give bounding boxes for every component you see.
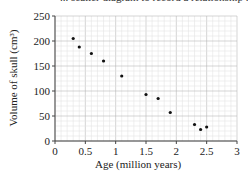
y-tick-label: 150 [34, 60, 51, 72]
y-tick-label: 50 [39, 110, 51, 122]
data-point [205, 125, 208, 128]
x-tick-label: 1 [113, 145, 119, 157]
data-point [78, 45, 81, 48]
x-tick-label: 0.5 [78, 145, 92, 157]
data-point [120, 74, 123, 77]
y-tick-label: 200 [34, 35, 51, 47]
x-tick-label: 0 [52, 145, 58, 157]
data-point [169, 111, 172, 114]
y-tick-label: 0 [45, 135, 51, 147]
x-tick-label: 1.5 [139, 145, 153, 157]
data-point [144, 93, 147, 96]
x-tick-label: 3 [234, 145, 240, 157]
x-tick-label: 2.5 [200, 145, 214, 157]
y-tick-label: 250 [34, 10, 51, 22]
y-tick-label: 100 [34, 85, 51, 97]
data-point [102, 59, 105, 62]
x-tick-label: 2 [174, 145, 180, 157]
scatter-chart: 00.511.522.53050100150200250 [0, 0, 248, 179]
data-point [199, 128, 202, 131]
data-point [157, 97, 160, 100]
data-point [90, 52, 93, 55]
data-point [193, 123, 196, 126]
data-point [72, 37, 75, 40]
